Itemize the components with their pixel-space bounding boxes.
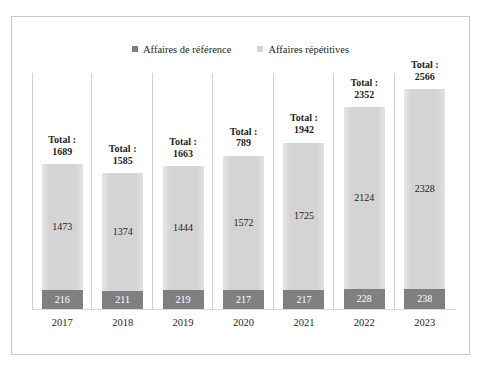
bar-value-label: 217 xyxy=(223,295,264,305)
bar-total-label-2022: Total :2352 xyxy=(337,77,392,101)
bar-stack-2023[interactable]: 2328238 xyxy=(404,89,445,309)
category-label-2018: 2018 xyxy=(95,317,150,328)
bar-total-label-2018: Total :1585 xyxy=(95,143,150,167)
category-separator-line xyxy=(273,73,274,309)
category-label-2017: 2017 xyxy=(35,317,90,328)
bar-segment-affaires-de-reference[interactable]: 217 xyxy=(223,290,264,309)
legend-item-affaires-de-reference[interactable]: Affaires de référence xyxy=(132,44,231,55)
bar-value-label: 1444 xyxy=(163,223,204,233)
bar-total-label-2021: Total :1942 xyxy=(276,112,331,136)
total-prefix: Total : xyxy=(95,143,150,155)
total-value: 789 xyxy=(216,137,271,149)
bar-stack-2021[interactable]: 1725217 xyxy=(283,143,324,310)
bar-total-label-2020: Total :789 xyxy=(216,126,271,150)
category-label-2019: 2019 xyxy=(156,317,211,328)
bar-value-label: 2124 xyxy=(344,193,385,203)
bar-total-label-2017: Total :1689 xyxy=(35,134,90,158)
category-separator-line xyxy=(32,73,33,309)
total-value: 1942 xyxy=(276,124,331,136)
bar-stack-2022[interactable]: 2124228 xyxy=(344,107,385,309)
legend-swatch-icon xyxy=(132,46,138,52)
total-prefix: Total : xyxy=(337,77,392,89)
category-separator-line xyxy=(394,73,395,309)
total-value: 1585 xyxy=(95,155,150,167)
bar-segment-affaires-de-reference[interactable]: 219 xyxy=(163,290,204,309)
category-separator-line xyxy=(152,73,153,309)
bar-total-label-2023: Total :2566 xyxy=(397,59,452,83)
category-label-2023: 2023 xyxy=(397,317,452,328)
category-label-2021: 2021 xyxy=(276,317,331,328)
legend-swatch-icon xyxy=(257,46,263,52)
bar-stack-2020[interactable]: 1572217 xyxy=(223,156,264,309)
category-label-2022: 2022 xyxy=(337,317,392,328)
total-prefix: Total : xyxy=(216,126,271,138)
bar-stack-2017[interactable]: 1473216 xyxy=(42,164,83,309)
total-prefix: Total : xyxy=(276,112,331,124)
bar-value-label: 238 xyxy=(404,294,445,304)
bar-total-label-2019: Total :1663 xyxy=(156,136,211,160)
bar-value-label: 2328 xyxy=(404,184,445,194)
legend-label: Affaires de référence xyxy=(143,44,231,55)
bar-segment-affaires-de-reference[interactable]: 228 xyxy=(344,289,385,309)
bar-stack-2018[interactable]: 1374211 xyxy=(102,173,143,309)
bar-segment-affaires-de-reference[interactable]: 217 xyxy=(283,290,324,309)
bar-value-label: 219 xyxy=(163,295,204,305)
bar-value-label: 1725 xyxy=(283,211,324,221)
bar-value-label: 211 xyxy=(102,295,143,305)
legend-label: Affaires répétitives xyxy=(268,44,349,55)
bar-segment-affaires-de-reference[interactable]: 211 xyxy=(102,291,143,309)
bar-segment-affaires-repetitives[interactable]: 1374 xyxy=(102,173,143,291)
category-separator-line xyxy=(212,73,213,309)
total-prefix: Total : xyxy=(156,136,211,148)
total-value: 1663 xyxy=(156,148,211,160)
bar-value-label: 1473 xyxy=(42,222,83,232)
bar-value-label: 216 xyxy=(42,295,83,305)
bar-segment-affaires-repetitives[interactable]: 1444 xyxy=(163,166,204,290)
category-label-2020: 2020 xyxy=(216,317,271,328)
total-value: 1689 xyxy=(35,146,90,158)
total-value: 2566 xyxy=(397,71,452,83)
bar-segment-affaires-repetitives[interactable]: 2124 xyxy=(344,107,385,289)
bar-segment-affaires-repetitives[interactable]: 2328 xyxy=(404,89,445,289)
category-separator-line xyxy=(333,73,334,309)
plot-area: 1473216137421114442191572217172521721242… xyxy=(32,73,455,309)
bar-segment-affaires-repetitives[interactable]: 1725 xyxy=(283,143,324,291)
chart-frame: Affaires de référence Affaires répétitiv… xyxy=(11,16,470,355)
bar-stack-2019[interactable]: 1444219 xyxy=(163,166,204,309)
legend-item-affaires-repetitives[interactable]: Affaires répétitives xyxy=(257,44,349,55)
bar-segment-affaires-repetitives[interactable]: 1473 xyxy=(42,164,83,290)
chart-legend: Affaires de référence Affaires répétitiv… xyxy=(12,41,469,57)
axis-baseline xyxy=(32,309,455,310)
bar-value-label: 228 xyxy=(344,294,385,304)
bar-segment-affaires-repetitives[interactable]: 1572 xyxy=(223,156,264,291)
total-prefix: Total : xyxy=(397,59,452,71)
bar-value-label: 1572 xyxy=(223,218,264,228)
category-separator-line xyxy=(91,73,92,309)
total-prefix: Total : xyxy=(35,134,90,146)
total-value: 2352 xyxy=(337,89,392,101)
bar-value-label: 1374 xyxy=(102,227,143,237)
bar-segment-affaires-de-reference[interactable]: 216 xyxy=(42,290,83,309)
bar-value-label: 217 xyxy=(283,295,324,305)
bar-segment-affaires-de-reference[interactable]: 238 xyxy=(404,289,445,309)
